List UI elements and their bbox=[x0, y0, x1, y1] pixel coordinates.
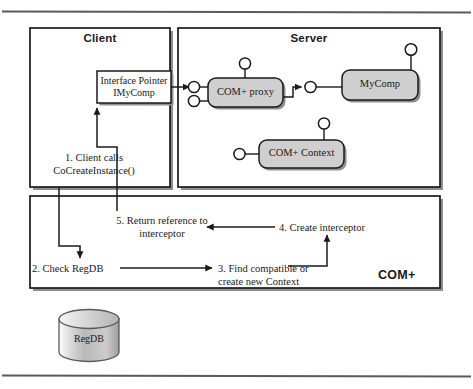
step3-find-or-create-context: 3. Find compatible or create new Context bbox=[218, 262, 308, 288]
step2-check-regdb: 2. Check RegDB bbox=[32, 262, 103, 275]
regdb-label: RegDB bbox=[59, 333, 119, 344]
step5-line1: 5. Return reference to bbox=[104, 214, 220, 227]
interface-pointer-box: Interface Pointer IMyComp bbox=[97, 75, 171, 99]
step5-line2: interceptor bbox=[104, 227, 220, 240]
com-plus-context-label: COM+ Context bbox=[259, 147, 344, 159]
diagram-vector-layer bbox=[0, 0, 473, 389]
com-plus-proxy-label: COM+ proxy bbox=[208, 86, 283, 98]
step5-return-reference: 5. Return reference to interceptor bbox=[104, 214, 220, 240]
step4-create-interceptor: 4. Create interceptor bbox=[279, 221, 365, 234]
interface-pointer-line1: Interface Pointer bbox=[97, 75, 171, 87]
comp-panel-title: COM+ bbox=[378, 268, 416, 282]
step1-line1: 1. Client calls bbox=[33, 151, 155, 164]
step1-client-calls: 1. Client calls CoCreateInstance() bbox=[33, 151, 155, 177]
step3-line2: create new Context bbox=[218, 275, 308, 288]
client-panel-title: Client bbox=[30, 32, 170, 45]
figure-canvas: Client Server Interface Pointer IMyComp … bbox=[0, 0, 473, 389]
page-rule-bottom bbox=[2, 376, 471, 377]
page-rule-top bbox=[2, 12, 471, 13]
step3-line1: 3. Find compatible or bbox=[218, 262, 308, 275]
step1-line2: CoCreateInstance() bbox=[33, 164, 155, 177]
mycomp-label: MyComp bbox=[342, 78, 418, 90]
interface-pointer-line2: IMyComp bbox=[97, 87, 171, 99]
server-panel-title: Server bbox=[178, 32, 440, 45]
